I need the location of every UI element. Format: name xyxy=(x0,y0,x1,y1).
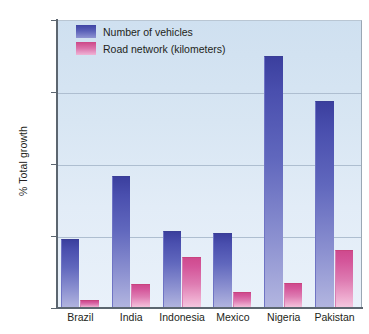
y-tick-mark-200 xyxy=(51,236,57,237)
bar-nigeria-vehicles xyxy=(264,56,283,308)
plot-area xyxy=(57,20,362,308)
y-axis-title: % Total growth xyxy=(17,91,29,231)
bar-india-roads xyxy=(131,284,150,308)
y-tick-mark-600 xyxy=(51,92,57,93)
bar-pakistan-roads xyxy=(335,250,354,308)
y-tick-mark-400 xyxy=(51,164,57,165)
legend-label-roads: Road network (kilometers) xyxy=(103,43,226,55)
legend-swatch-vehicles-icon xyxy=(76,25,96,38)
bar-chart: % Total growth 0200400600800 BrazilIndia… xyxy=(0,0,369,334)
legend-label-vehicles: Number of vehicles xyxy=(103,26,193,38)
bar-brazil-vehicles xyxy=(61,239,80,308)
bar-india-vehicles xyxy=(112,176,131,308)
chart-legend: Number of vehiclesRoad network (kilomete… xyxy=(76,25,226,55)
bar-mexico-vehicles xyxy=(213,233,232,308)
gridline-600 xyxy=(57,93,361,94)
x-axis-line xyxy=(56,307,363,309)
bar-pakistan-vehicles xyxy=(315,101,334,308)
y-tick-mark-800 xyxy=(51,20,57,21)
legend-item-vehicles: Number of vehicles xyxy=(76,25,226,38)
bar-mexico-roads xyxy=(233,292,252,308)
y-tick-mark-0 xyxy=(51,308,57,309)
bar-indonesia-roads xyxy=(182,257,201,308)
x-tick-label-pakistan: Pakistan xyxy=(295,311,369,323)
bar-nigeria-roads xyxy=(284,283,303,308)
bar-indonesia-vehicles xyxy=(163,231,182,308)
legend-item-roads: Road network (kilometers) xyxy=(76,42,226,55)
legend-swatch-roads-icon xyxy=(76,42,96,55)
